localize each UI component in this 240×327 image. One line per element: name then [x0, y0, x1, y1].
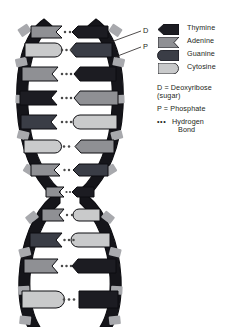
base-guanine	[73, 164, 108, 176]
deoxyribose-leader-label: D	[143, 26, 148, 35]
legend-label-guanine: Guanine	[187, 50, 215, 58]
base-thymine	[72, 187, 94, 197]
base-thymine	[72, 259, 116, 273]
base-cytosine	[73, 209, 100, 221]
base-cytosine	[24, 140, 62, 153]
hydrogen-bond-dots	[63, 239, 75, 242]
hydrogen-bond-dots	[61, 73, 73, 76]
hydrogen-bond-dots	[61, 265, 73, 268]
hydrogen-bond-dots	[63, 298, 76, 301]
legend-label-adenine: Adenine	[187, 37, 214, 45]
legend-swatch-thymine	[157, 24, 179, 35]
base-cytosine	[25, 43, 62, 57]
base-cytosine	[22, 291, 65, 308]
legend-note-deoxyribose-line2: (sugar)	[157, 92, 180, 100]
base-guanine	[70, 43, 112, 57]
base-adenine	[22, 67, 58, 81]
legend-swatch-adenine	[158, 37, 179, 48]
sugar-unit	[109, 315, 121, 325]
legend-label-cytosine: Cytosine	[187, 63, 216, 71]
base-thymine	[20, 91, 57, 105]
legend-label-thymine: Thymine	[187, 24, 215, 32]
base-thymine	[74, 67, 116, 81]
base-cytosine	[71, 233, 110, 247]
base-cytosine	[73, 115, 117, 129]
hydrogen-bond-dots	[61, 121, 73, 124]
base-adenine	[75, 140, 114, 153]
legend-swatch-guanine	[157, 50, 179, 61]
hydrogen-bond-dots	[61, 49, 73, 52]
sugar-unit	[19, 315, 31, 325]
hydrogen-bond-dots-icon: •••	[157, 118, 166, 126]
legend-note-phosphate: P = Phosphate	[157, 105, 206, 113]
base-thymine	[72, 26, 108, 38]
base-guanine	[21, 115, 57, 129]
base-adenine	[74, 91, 118, 105]
legend-swatch-list: Thymine Adenine Guanine Cytosine D = Deo…	[157, 21, 240, 111]
base-guanine	[79, 291, 118, 308]
hydrogen-bond-dots	[61, 97, 73, 100]
legend-swatch-cytosine	[158, 63, 179, 74]
phosphate-leader-label: P	[143, 42, 148, 51]
legend-note-hydrogen-line2: Bond	[178, 126, 195, 134]
